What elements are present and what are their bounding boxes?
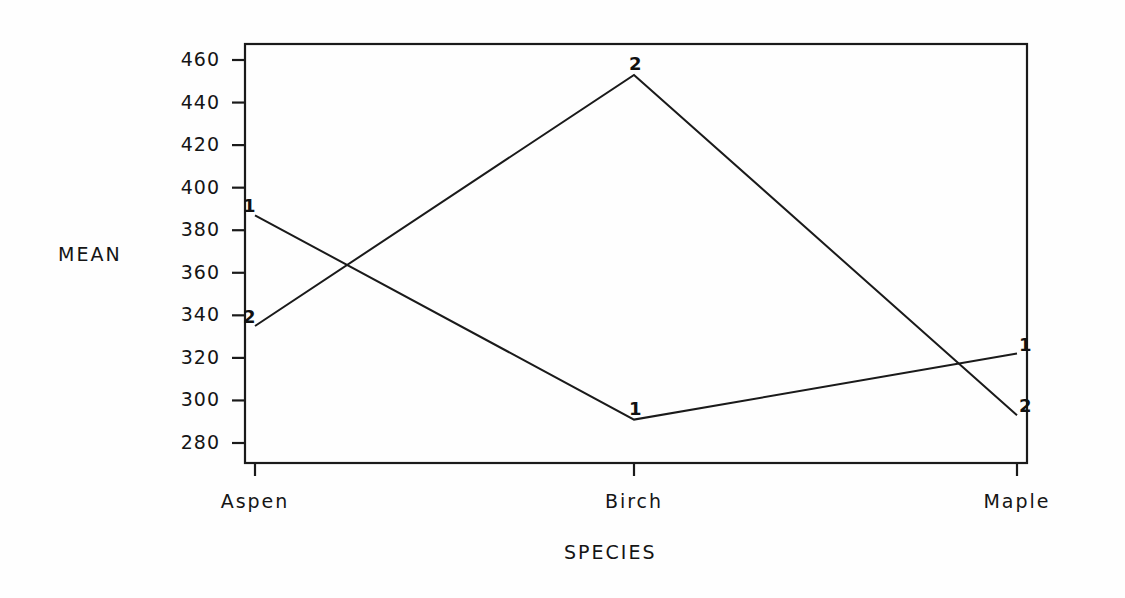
data-point-label: 1 [629,398,642,419]
data-point-label: 2 [243,306,256,327]
y-tick-label: 340 [120,303,220,325]
y-tick-label: 460 [120,48,220,70]
y-tick-label: 360 [120,261,220,283]
data-point-label: 1 [1019,334,1032,355]
data-point-label: 2 [629,53,642,74]
x-axis-ticks [255,463,1017,476]
line-chart: 280300320340360380400420440460 AspenBirc… [0,0,1125,598]
y-tick-label: 380 [120,218,220,240]
y-tick-label: 320 [120,346,220,368]
x-category-label: Aspen [155,490,355,512]
y-tick-label: 400 [120,176,220,198]
y-axis-title: MEAN [58,243,122,265]
y-axis-ticks [232,60,245,443]
data-point-label: 2 [1019,395,1032,416]
y-tick-label: 420 [120,133,220,155]
x-axis-title: SPECIES [564,541,656,563]
y-tick-label: 440 [120,91,220,113]
series-lines [255,75,1017,420]
x-category-label: Birch [534,490,734,512]
y-tick-label: 280 [120,431,220,453]
y-tick-label: 300 [120,388,220,410]
data-point-label: 1 [243,195,256,216]
x-category-label: Maple [917,490,1117,512]
